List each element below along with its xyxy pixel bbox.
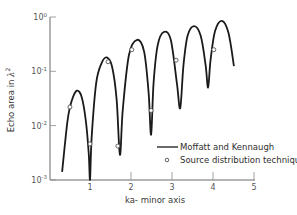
data-point-circle	[88, 142, 92, 146]
y-tick-label: 10-3	[31, 174, 47, 185]
y-axis-title: Echo area in λ2	[4, 67, 16, 132]
data-point-circle	[106, 60, 110, 64]
data-point-circle	[174, 58, 178, 62]
legend-circle-icon	[165, 158, 169, 162]
chart-canvas: 10-310-210-1100 12345 Moffatt and Kennau…	[0, 0, 297, 215]
y-axis-title-text: Echo area in	[6, 77, 16, 132]
data-point-circle	[68, 105, 72, 109]
x-tick-label: 1	[87, 183, 92, 192]
y-tick-label: 10-2	[31, 120, 47, 131]
y-tick-label: 10-1	[31, 66, 47, 77]
x-axis-title: ka- minor axis	[125, 195, 186, 205]
legend-label-source: Source distribution technique	[180, 155, 297, 165]
y-tick-label: 100	[33, 12, 47, 23]
svg-text:Echo area in λ2: Echo area in λ2	[4, 67, 16, 132]
data-point-circle	[212, 48, 216, 52]
y-axis-title-sup: 2	[4, 67, 11, 71]
x-ticks: 12345	[87, 172, 256, 192]
x-tick-label: 2	[128, 183, 133, 192]
y-ticks: 10-310-210-1100	[31, 12, 56, 185]
x-tick-label: 4	[210, 183, 215, 192]
data-point-circle	[116, 144, 120, 148]
legend-label-moffatt: Moffatt and Kennaugh	[180, 142, 274, 152]
x-tick-label: 5	[251, 183, 256, 192]
data-point-circle	[130, 48, 134, 52]
x-tick-label: 3	[169, 183, 174, 192]
data-point-circle	[149, 108, 153, 112]
series-source-distribution-markers	[68, 48, 216, 148]
legend: Moffatt and Kennaugh Source distribution…	[157, 142, 297, 165]
